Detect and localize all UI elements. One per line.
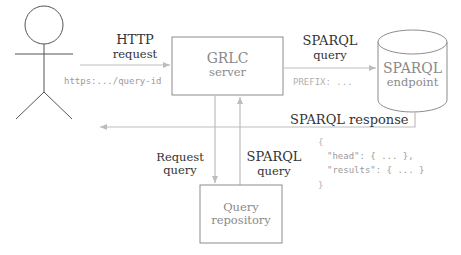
user-stick-figure-icon (15, 6, 73, 119)
sparql-query-return-title: SPARQL (244, 150, 304, 165)
sparql-response-label: SPARQL response (290, 110, 400, 128)
query-repository-subtitle: repository (200, 214, 282, 227)
request-query-label: Request query (150, 151, 210, 177)
sparql-endpoint-subtitle: endpoint (378, 76, 447, 89)
sparql-response-text: SPARQL response (290, 112, 409, 127)
sparql-query-return-label: SPARQL query (244, 150, 304, 178)
sparql-endpoint-title: SPARQL (378, 60, 447, 76)
response-json-head: "head": { ... }, (327, 151, 414, 161)
grlc-server-label: GRLC server (172, 50, 283, 79)
sparql-query-title: SPARQL (300, 34, 360, 49)
response-json-open: { (318, 137, 323, 147)
grlc-server-subtitle: server (172, 66, 283, 79)
http-request-label: HTTP request (105, 33, 165, 61)
sparql-endpoint-label: SPARQL endpoint (378, 60, 447, 89)
http-request-example: https:.../query-id (64, 76, 162, 86)
grlc-server-title: GRLC (172, 50, 283, 66)
response-json-close: } (318, 180, 323, 190)
query-repository-label: Query repository (200, 201, 282, 227)
response-json-results: "results": { ... } (327, 165, 425, 175)
sparql-query-subtitle: query (300, 49, 360, 62)
sparql-query-example: PREFIX: ... (293, 77, 353, 87)
http-request-title: HTTP (105, 33, 165, 48)
request-query-subtitle: query (150, 164, 210, 177)
http-request-subtitle: request (105, 48, 165, 61)
sparql-query-return-subtitle: query (244, 165, 304, 178)
sparql-query-label: SPARQL query (300, 34, 360, 62)
